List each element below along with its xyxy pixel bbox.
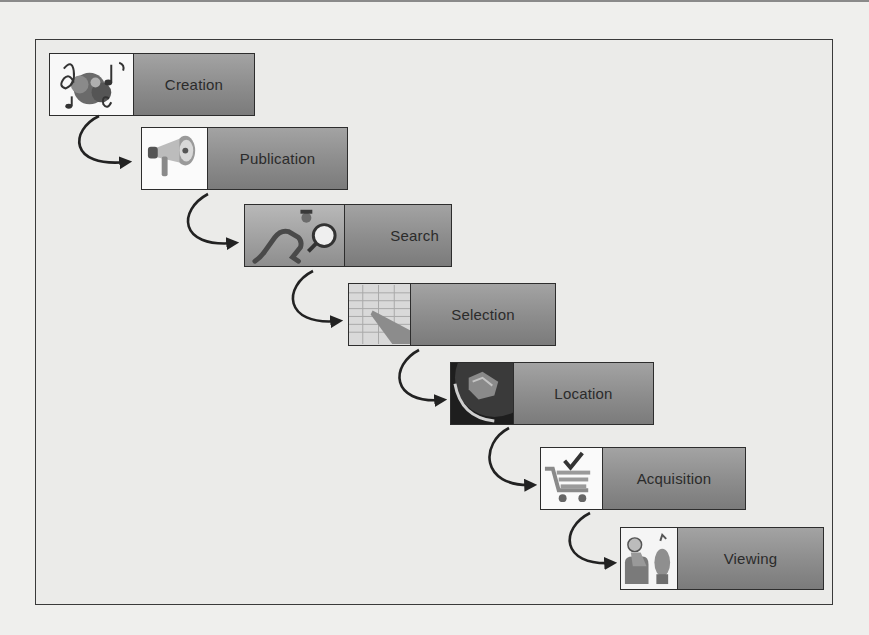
stage-acquisition: Acquisition [540,447,746,510]
stage-location: Location [450,362,654,425]
stage-label: Creation [134,54,254,115]
music-notes-icon [50,54,134,115]
person-watching-icon [621,528,678,589]
stage-viewing: Viewing [620,527,824,590]
stage-selection: Selection [348,283,556,346]
stage-label: Acquisition [603,448,745,509]
stage-label: Viewing [678,528,823,589]
detective-magnifier-icon [245,205,345,266]
stage-publication: Publication [141,127,348,190]
globe-satellite-icon [451,363,514,424]
stage-label: Location [514,363,653,424]
stage-search: Search [244,204,452,267]
stage-label: Selection [411,284,555,345]
stage-label: Publication [208,128,347,189]
megaphone-icon [142,128,208,189]
shopping-cart-check-icon [541,448,603,509]
stage-label: Search [345,205,451,266]
stage-creation: Creation [49,53,255,116]
page-top-rule [0,0,869,2]
hand-pointing-list-icon [349,284,411,345]
